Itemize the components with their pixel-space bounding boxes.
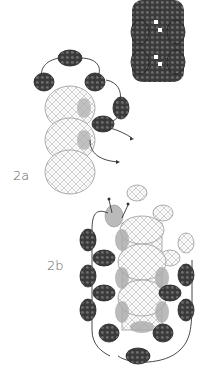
step-2b-label: 2b [47,258,64,273]
beadwork-diagram [0,0,205,374]
step-2a-label: 2a [13,168,29,183]
step-2b-diagram [80,185,194,364]
step-2a-diagram [34,50,134,194]
finished-beadwork-column [131,0,185,82]
